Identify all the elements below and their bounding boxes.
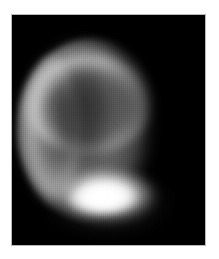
vertical-scanline-texture — [12, 15, 205, 245]
page-root: Grayscale telescopic image of a planetar… — [0, 0, 219, 259]
planet-disk-halo — [14, 35, 166, 225]
horizontal-scanline-texture — [12, 15, 205, 245]
planet-disk-body — [18, 39, 164, 221]
dark-albedo-patch — [42, 63, 128, 169]
astronomical-image-plate — [11, 14, 206, 246]
bright-polar-cap — [54, 163, 166, 223]
bright-limb-arc-top — [18, 33, 158, 153]
dark-albedo-band — [38, 125, 130, 191]
terminator-shadow — [72, 33, 182, 229]
polar-cap-glow — [48, 175, 172, 237]
polar-cap-core — [68, 183, 142, 215]
bright-limb-arc-left — [14, 55, 80, 215]
sky-background — [12, 15, 205, 245]
figure-alt-text: Grayscale telescopic image of a planetar… — [0, 0, 1, 1]
